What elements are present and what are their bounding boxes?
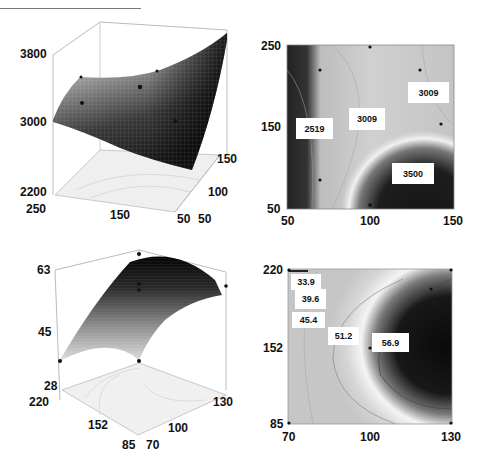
x-tick-152: 152 — [88, 419, 108, 431]
tr-y-tick-150: 150 — [261, 121, 281, 133]
y-tick-130: 130 — [213, 396, 233, 408]
y-tick-100: 100 — [168, 422, 188, 434]
tr-x-tick-150: 150 — [443, 215, 463, 227]
y-tick-50: 50 — [198, 213, 211, 225]
contour-label-3500: 3500 — [392, 163, 434, 184]
br-y-tick-220: 220 — [263, 264, 283, 276]
y-tick-70: 70 — [146, 439, 159, 451]
contour-plot-bottom-right: 33.9 39.6 45.4 51.2 56.9 — [288, 269, 452, 424]
br-y-tick-85: 85 — [270, 418, 283, 430]
z-tick-45: 45 — [38, 326, 51, 338]
z-tick-3800: 3800 — [20, 48, 47, 60]
surface-plot-bottom-left-graphic — [0, 240, 240, 471]
tr-y-tick-50: 50 — [267, 203, 280, 215]
y-tick-150: 150 — [217, 153, 237, 165]
z-tick-3000: 3000 — [20, 116, 47, 128]
x-tick-50: 50 — [177, 213, 190, 225]
contour-plot-top-right: 2519 3009 3009 3500 — [287, 45, 454, 209]
br-x-tick-70: 70 — [282, 431, 295, 443]
x-tick-220: 220 — [29, 396, 49, 408]
tr-x-tick-50: 50 — [281, 215, 294, 227]
contour-label-33-9: 33.9 — [291, 274, 321, 290]
z-tick-63: 63 — [37, 264, 50, 276]
contour-label-39-6: 39.6 — [295, 289, 326, 309]
contour-label-56-9: 56.9 — [372, 333, 409, 352]
contour-label-3009-center: 3009 — [349, 108, 385, 130]
x-tick-85: 85 — [122, 439, 135, 451]
br-y-tick-152: 152 — [263, 342, 283, 354]
surface-plot-bottom-left: 63 45 28 220 152 85 70 100 130 — [0, 240, 240, 471]
br-x-tick-100: 100 — [360, 431, 380, 443]
br-x-tick-130: 130 — [441, 431, 461, 443]
contour-label-45-4: 45.4 — [292, 312, 325, 328]
tr-y-tick-250: 250 — [261, 40, 281, 52]
x-tick-250: 250 — [26, 203, 46, 215]
contour-label-2519: 2519 — [296, 118, 333, 139]
contour-label-51-2: 51.2 — [328, 327, 359, 345]
x-tick-150: 150 — [110, 209, 130, 221]
z-tick-2200: 2200 — [20, 186, 47, 198]
z-tick-28: 28 — [44, 380, 57, 392]
surface-plot-top-left: 3800 3000 2200 250 150 50 50 100 150 — [0, 0, 240, 240]
tr-x-tick-100: 100 — [360, 215, 380, 227]
y-tick-100: 100 — [208, 186, 228, 198]
contour-label-3009-top: 3009 — [408, 82, 449, 103]
